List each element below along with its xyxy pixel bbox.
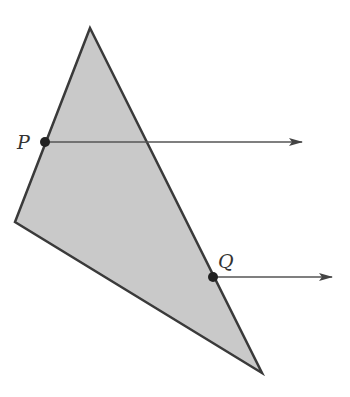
diagram-canvas: P Q [0, 0, 350, 397]
point-p-label: P [16, 131, 31, 153]
point-q-label: Q [218, 250, 234, 272]
point-q-dot [208, 272, 218, 282]
shaded-triangle [15, 28, 262, 373]
point-p-dot [40, 137, 50, 147]
